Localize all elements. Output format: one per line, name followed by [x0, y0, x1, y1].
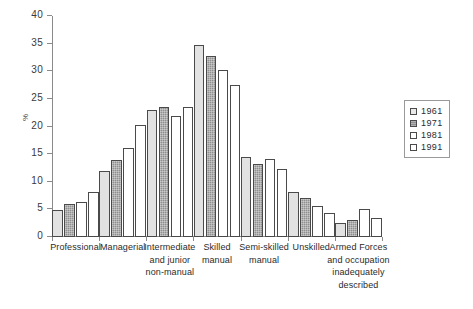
bar [206, 56, 217, 237]
bar-chart: % 0510152025303540 ProfessionalManageria… [0, 0, 473, 309]
bar [88, 192, 99, 237]
category-label-line: Armed Forces [322, 241, 396, 254]
legend-item[interactable]: 1981 [410, 129, 443, 141]
bar [277, 169, 288, 237]
legend-swatch-icon [410, 144, 417, 151]
legend-item[interactable]: 1961 [410, 105, 443, 117]
y-axis-tick-label: 5 [37, 201, 43, 214]
y-axis-tick-label: 40 [31, 8, 43, 21]
bar [64, 204, 75, 237]
category-label-line: described [322, 279, 396, 292]
category-label-line: non-manual [133, 266, 207, 279]
bar [76, 202, 87, 237]
legend-label: 1981 [421, 129, 443, 141]
bar [312, 206, 323, 237]
bar-group [146, 16, 193, 237]
legend-swatch-icon [410, 108, 417, 115]
bar [123, 148, 134, 237]
bar-group [99, 16, 146, 237]
category-label-line: inadequately [322, 266, 396, 279]
legend-swatch-icon [410, 132, 417, 139]
y-axis-tick-label: 15 [31, 146, 43, 159]
plot-area: 0510152025303540 [52, 16, 382, 237]
y-axis-tick-label: 20 [31, 119, 43, 132]
x-axis-category-labels: ProfessionalManagerialIntermediateand ju… [52, 241, 382, 309]
bar-group [52, 16, 99, 237]
bar [359, 209, 370, 237]
bar [171, 116, 182, 237]
category-label-line: and occupation [322, 254, 396, 267]
bar [253, 164, 264, 237]
legend: 1961197119811991 [404, 100, 450, 158]
category-label-line: manual [227, 254, 301, 267]
bar [371, 218, 382, 237]
bar [147, 110, 158, 237]
y-axis-tick-label: 25 [31, 91, 43, 104]
y-axis-tick-label: 35 [31, 36, 43, 49]
legend-label: 1991 [421, 141, 443, 153]
bar [335, 223, 346, 237]
legend-item[interactable]: 1991 [410, 141, 443, 153]
bar [218, 70, 229, 237]
bar [288, 192, 299, 237]
bar [183, 107, 194, 237]
bar [300, 198, 311, 237]
bar [159, 107, 170, 237]
bar [265, 159, 276, 237]
legend-swatch-icon [410, 120, 417, 127]
bar [111, 160, 122, 237]
legend-label: 1961 [421, 105, 443, 117]
bar [194, 45, 205, 237]
bar-group [335, 16, 382, 237]
legend-label: 1971 [421, 117, 443, 129]
bar-group [288, 16, 335, 237]
legend-item[interactable]: 1971 [410, 117, 443, 129]
bar [99, 171, 110, 237]
bar [347, 220, 358, 237]
bar [230, 85, 241, 237]
y-axis-tick-label: 10 [31, 174, 43, 187]
bar [52, 210, 63, 237]
y-axis-tick-label: 30 [31, 63, 43, 76]
bar-group [193, 16, 240, 237]
bar-group [241, 16, 288, 237]
x-axis-category-label: Armed Forcesand occupationinadequatelyde… [322, 241, 396, 291]
bar [135, 125, 146, 237]
bar [241, 157, 252, 237]
bar [324, 213, 335, 237]
y-axis-title: % [21, 114, 30, 121]
